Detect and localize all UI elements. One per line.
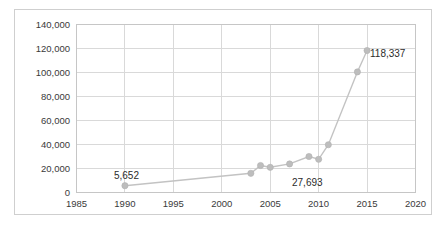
data-point-marker	[257, 162, 263, 168]
annotation-label: 27,693	[292, 177, 323, 188]
y-tick-label: 20,000	[41, 163, 70, 174]
series-line	[125, 51, 367, 186]
x-tick-label: 2000	[211, 198, 232, 209]
x-tick-label: 2020	[405, 198, 426, 209]
data-point-marker	[248, 170, 254, 176]
x-tick-label: 2005	[260, 198, 281, 209]
x-tick-label: 1990	[114, 198, 135, 209]
data-point-marker	[122, 183, 128, 189]
chart-figure: 140,000 120,000 100,000 80,000 60,000 40…	[0, 0, 447, 241]
line-chart-plot: 140,000 120,000 100,000 80,000 60,000 40…	[0, 0, 447, 241]
data-point-marker	[354, 69, 360, 75]
y-tick-label: 60,000	[41, 115, 70, 126]
data-point-marker	[306, 153, 312, 159]
x-axis-tick-labels: 1985 1990 1995 2000 2005 2010 2015 2020	[66, 198, 426, 209]
y-tick-label: 0	[65, 187, 70, 198]
data-point-marker	[316, 156, 322, 162]
x-tick-label: 1985	[66, 198, 87, 209]
y-tick-label: 80,000	[41, 91, 70, 102]
y-tick-label: 40,000	[41, 139, 70, 150]
data-point-marker	[286, 161, 292, 167]
y-tick-label: 120,000	[36, 43, 70, 54]
series-markers	[122, 47, 370, 188]
y-tick-label: 140,000	[36, 19, 70, 30]
y-axis-tick-labels: 140,000 120,000 100,000 80,000 60,000 40…	[36, 19, 70, 198]
data-point-marker	[267, 164, 273, 170]
x-tick-label: 2010	[308, 198, 329, 209]
annotation-label: 5,652	[114, 170, 139, 181]
x-tick-label: 1995	[163, 198, 184, 209]
y-tick-label: 100,000	[36, 67, 70, 78]
data-point-marker	[325, 142, 331, 148]
annotation-label: 118,337	[370, 48, 406, 59]
x-tick-label: 2015	[357, 198, 378, 209]
